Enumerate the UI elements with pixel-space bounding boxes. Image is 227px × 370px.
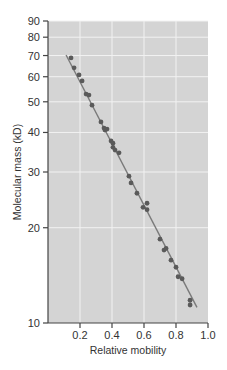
data-point (174, 265, 179, 270)
x-tick-label: 0.8 (168, 329, 183, 341)
data-point (129, 181, 134, 186)
data-point (188, 298, 193, 303)
data-point (188, 303, 193, 308)
data-point (77, 73, 82, 78)
data-point (105, 127, 110, 132)
x-tick-label: 0.2 (72, 329, 87, 341)
x-tick-label: 1.0 (200, 329, 215, 341)
y-tick-label: 50 (28, 96, 40, 108)
x-axis-label: Relative mobility (90, 344, 167, 356)
y-tick-label: 10 (28, 317, 40, 329)
y-tick-label: 40 (28, 126, 40, 138)
data-point (117, 150, 122, 155)
data-point (169, 258, 174, 263)
data-point (111, 141, 116, 146)
data-point (90, 103, 95, 108)
y-axis-label: Molecular mass (kD) (11, 124, 23, 220)
data-point (99, 119, 104, 124)
data-point (145, 201, 150, 206)
y-tick-label: 90 (28, 15, 40, 27)
chart: 102030405060708090 0.20.40.60.81.0 Relat… (0, 0, 227, 370)
data-point (127, 174, 132, 179)
x-axis-tick-labels: 0.20.40.60.81.0 (72, 329, 215, 341)
data-point (72, 65, 77, 70)
data-point (69, 56, 74, 61)
data-point (158, 237, 163, 242)
y-axis-tick-labels: 102030405060708090 (28, 15, 40, 329)
data-point (113, 148, 118, 153)
data-point (141, 205, 146, 210)
x-tick-label: 0.4 (104, 329, 119, 341)
y-tick-label: 80 (28, 31, 40, 43)
data-point (87, 93, 92, 98)
data-point (164, 246, 169, 251)
y-tick-label: 70 (28, 50, 40, 62)
y-tick-label: 30 (28, 166, 40, 178)
data-point (135, 191, 140, 196)
y-tick-label: 60 (28, 71, 40, 83)
data-point (180, 276, 185, 281)
y-tick-label: 20 (28, 222, 40, 234)
x-tick-label: 0.6 (136, 329, 151, 341)
data-point (145, 207, 150, 212)
data-point (80, 79, 85, 84)
